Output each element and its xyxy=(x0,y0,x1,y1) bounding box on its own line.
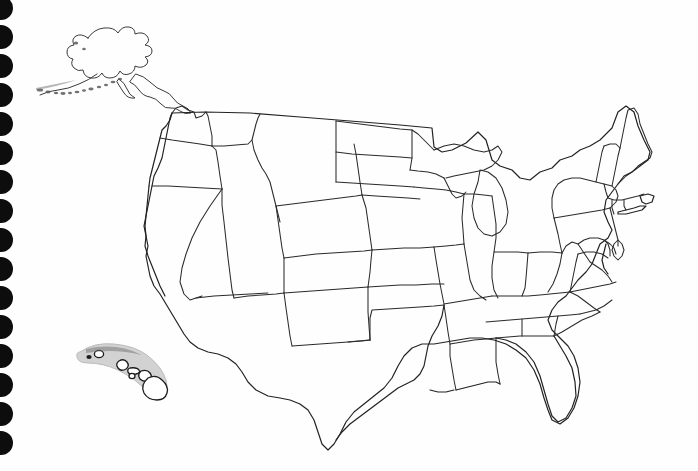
hawaii-island-chain xyxy=(77,344,168,400)
united-states-outline-map xyxy=(0,0,698,471)
worksheet-page xyxy=(0,0,698,471)
alaska-outline xyxy=(36,27,191,114)
contiguous-united-states xyxy=(144,106,654,450)
